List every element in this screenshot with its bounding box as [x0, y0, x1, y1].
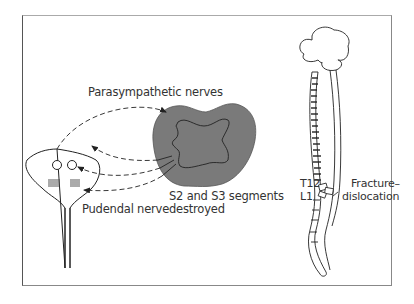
label-t12: T12 [300, 177, 320, 190]
spinal-cord-cross-section [153, 104, 256, 187]
label-l1: L1 [300, 190, 313, 203]
bladder-wall-arrow [92, 146, 158, 160]
diagram-artwork [0, 0, 414, 304]
label-fracture-line2: dislocation [342, 190, 399, 203]
spinal-cord-longitudinal [325, 70, 341, 270]
label-pudendal-nerve: Pudendal nerve [82, 203, 169, 216]
fracture-site [318, 183, 338, 198]
parasympathetic-arrow [57, 107, 166, 149]
label-parasympathetic-nerves: Parasympathetic nerves [88, 86, 223, 99]
nerve-arrows [57, 107, 166, 190]
internal-sphincter-arrow [78, 167, 160, 175]
brain [300, 27, 349, 70]
label-segments-line2: destroyed [169, 203, 225, 216]
external-sphincter-striations [48, 180, 80, 186]
label-fracture-line1: Fracture– [351, 177, 400, 190]
sphincter-circle-right [68, 161, 77, 170]
sphincter-circle-left [53, 161, 62, 170]
